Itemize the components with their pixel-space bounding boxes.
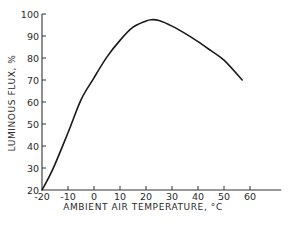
x-tick-label: 30: [166, 191, 178, 202]
y-tick-label: 30: [27, 163, 39, 174]
y-tick-label: 40: [27, 141, 39, 152]
x-tick-label: 50: [218, 191, 230, 202]
luminous-flux-curve: [42, 20, 242, 190]
x-tick-label: -10: [60, 191, 76, 202]
x-tick-label: 40: [192, 191, 204, 202]
x-tick-label: 60: [244, 191, 256, 202]
y-tick-label: 60: [27, 97, 39, 108]
y-tick-label: 100: [21, 9, 39, 20]
y-tick-label: 70: [27, 75, 39, 86]
axes: [42, 14, 281, 190]
luminous-flux-chart: 2030405060708090100 -20-100102030405060 …: [0, 0, 290, 225]
x-tick-label: 0: [91, 191, 97, 202]
y-tick-label: 80: [27, 53, 39, 64]
x-tick-label: 10: [114, 191, 126, 202]
x-axis-ticks: -20-100102030405060: [34, 186, 256, 202]
x-tick-label: 20: [140, 191, 152, 202]
x-tick-label: -20: [34, 191, 50, 202]
y-tick-label: 90: [27, 31, 39, 42]
x-axis-title: AMBIENT AIR TEMPERATURE, °C: [63, 202, 223, 212]
y-tick-label: 50: [27, 119, 39, 130]
y-axis-title: LUMINOUS FLUX, %: [7, 55, 17, 152]
